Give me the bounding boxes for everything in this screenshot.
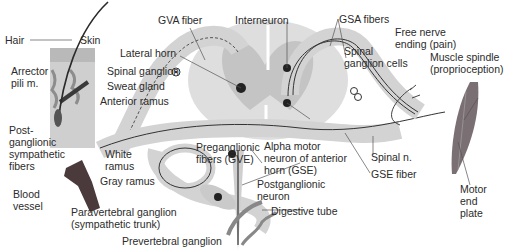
label-gsa-fibers: GSA fibers xyxy=(339,13,389,25)
label-skin: Skin xyxy=(80,34,100,46)
label-spinal-nerve: Spinal n. xyxy=(371,151,412,163)
label-motor-end-plate: Motor end plate xyxy=(460,183,487,219)
label-gva-fiber: GVA fiber xyxy=(158,14,202,26)
blood-vessel xyxy=(64,160,100,212)
label-paravertebral-ganglion: Paravertebral ganglion (sympathetic trun… xyxy=(71,206,177,230)
label-postganglionic-neuron: Postganglionic neuron xyxy=(257,178,325,202)
spinal-nerve-diagram: Hair Skin Arrector pili m. GVA fiber Lat… xyxy=(0,0,511,250)
label-lateral-horn: Lateral horn xyxy=(120,47,176,59)
label-gray-ramus: Gray ramus xyxy=(100,175,155,187)
label-sweat-gland: Sweat gland xyxy=(107,80,165,92)
label-muscle-spindle: Muscle spindle (proprioception) xyxy=(430,51,504,75)
label-interneuron: Interneuron xyxy=(235,14,289,26)
label-spinal-ganglion: Spinal ganglion xyxy=(107,65,179,77)
label-blood-vessel: Blood vessel xyxy=(13,188,43,212)
label-free-nerve-ending: Free nerve ending (pain) xyxy=(395,26,456,50)
label-alpha-motor-neuron: Alpha motor neuron of anterior horn (GSE… xyxy=(264,140,347,176)
label-hair: Hair xyxy=(5,34,24,46)
label-digestive-tube: Digestive tube xyxy=(271,205,338,217)
label-white-ramus: White ramus xyxy=(105,148,134,172)
label-arrector-pili: Arrector pili m. xyxy=(11,65,48,89)
label-anterior-ramus: Anterior ramus xyxy=(100,95,169,107)
muscle xyxy=(452,82,479,174)
label-postganglionic-fibers: Post- ganglionic sympathetic fibers xyxy=(9,124,65,172)
label-gse-fiber: GSE fiber xyxy=(371,168,417,180)
label-prevertebral-ganglion: Prevertebral ganglion xyxy=(122,235,222,247)
label-preganglionic-fibers: Preganglionic fibers (GVE) xyxy=(196,141,260,165)
